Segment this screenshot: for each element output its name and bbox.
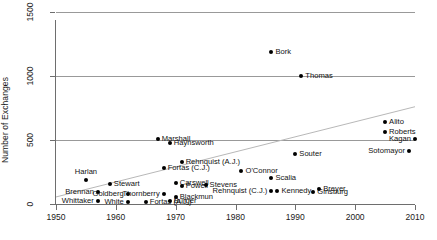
data-point xyxy=(162,192,166,196)
data-point-label: White xyxy=(104,198,123,206)
y-tick xyxy=(50,140,55,141)
x-tick xyxy=(236,205,237,210)
y-tick xyxy=(50,204,55,205)
data-point xyxy=(180,160,184,164)
data-point-label: Souter xyxy=(299,150,321,158)
data-point-label: Kagan xyxy=(389,135,411,143)
data-point-label: Blackmun xyxy=(180,193,213,201)
y-tick-label: 1000 xyxy=(25,59,35,93)
data-point-label: Alito xyxy=(389,118,404,126)
trend-line xyxy=(56,12,415,204)
x-tick xyxy=(176,205,177,210)
data-point-label: Sotomayor xyxy=(368,147,405,155)
data-point xyxy=(126,200,130,204)
data-point-label: Thornberry xyxy=(123,190,160,198)
data-point xyxy=(108,182,112,186)
data-point xyxy=(180,184,184,188)
x-tick-label: 1970 xyxy=(156,212,196,222)
y-tick xyxy=(50,76,55,77)
data-point xyxy=(413,137,417,141)
data-point xyxy=(156,137,160,141)
x-tick-label: 1980 xyxy=(216,212,256,222)
data-point-label: O'Connor xyxy=(245,167,277,175)
data-point-label: Rehnquist (A.J.) xyxy=(186,158,240,166)
data-point-label: Bork xyxy=(275,48,291,56)
y-axis-title: Number of Exchanges xyxy=(0,0,14,240)
data-point-label: Whittaker xyxy=(62,197,94,205)
data-point-label: Haynsworth xyxy=(174,139,214,147)
data-point xyxy=(174,181,178,185)
data-point xyxy=(174,195,178,199)
scatter-chart: Number of Exchanges 050010001500 1950196… xyxy=(0,0,437,240)
data-point-label: Breyer xyxy=(323,185,345,193)
x-tick xyxy=(56,205,57,210)
x-tick xyxy=(116,205,117,210)
data-point xyxy=(168,141,172,145)
data-point xyxy=(168,199,172,203)
x-tick xyxy=(415,205,416,210)
data-point-label: Kennedy xyxy=(281,187,311,195)
data-point-label: Stewart xyxy=(114,180,140,188)
y-tick xyxy=(50,12,55,13)
data-point xyxy=(162,166,166,170)
y-tick-label: 500 xyxy=(25,123,35,157)
data-point xyxy=(144,200,148,204)
x-tick-label: 2000 xyxy=(335,212,375,222)
data-point-label: Rehnquist (C.J.) xyxy=(213,187,268,195)
data-point-label: Harlan xyxy=(75,168,97,176)
data-point xyxy=(407,149,411,153)
data-point-label: Thomas xyxy=(305,72,332,80)
x-tick-label: 2010 xyxy=(395,212,435,222)
x-tick xyxy=(295,205,296,210)
x-tick-label: 1950 xyxy=(36,212,76,222)
plot-area: HarlanBrennanWhittakerGoldbergWhiteStewa… xyxy=(56,12,415,204)
y-tick-label: 1500 xyxy=(25,0,35,29)
x-tick-label: 1960 xyxy=(96,212,136,222)
x-tick xyxy=(355,205,356,210)
data-point-label: Scalia xyxy=(275,174,296,182)
y-tick-label: 0 xyxy=(25,187,35,221)
data-point xyxy=(317,187,321,191)
data-point-label: Brennan xyxy=(65,188,94,196)
x-tick-label: 1990 xyxy=(275,212,315,222)
